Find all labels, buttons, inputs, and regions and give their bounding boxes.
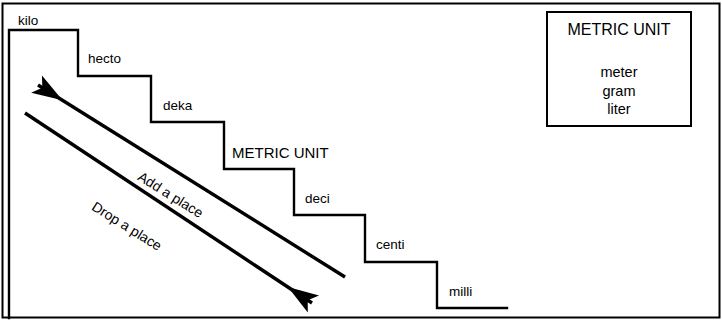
add-a-place-arrow — [38, 85, 345, 277]
metric-unit-item-meter: meter — [548, 63, 690, 82]
step-label-metric-unit: METRIC UNIT — [232, 145, 329, 160]
metric-unit-item-gram: gram — [548, 82, 690, 101]
step-label-deci: deci — [305, 192, 330, 206]
step-label-hecto: hecto — [88, 52, 121, 66]
staircase-path — [9, 30, 507, 318]
metric-unit-item-liter: liter — [548, 100, 690, 119]
metric-unit-box-units: meter gram liter — [548, 63, 690, 119]
metric-staircase-diagram: kilo hecto deka METRIC UNIT deci centi m… — [0, 0, 722, 323]
drop-a-place-arrow — [25, 113, 312, 303]
step-label-deka: deka — [163, 99, 192, 113]
step-label-centi: centi — [376, 238, 405, 252]
step-label-milli: milli — [449, 285, 472, 299]
metric-unit-box: METRIC UNIT meter gram liter — [546, 11, 692, 127]
metric-unit-box-title: METRIC UNIT — [548, 22, 690, 38]
step-label-kilo: kilo — [18, 14, 38, 28]
